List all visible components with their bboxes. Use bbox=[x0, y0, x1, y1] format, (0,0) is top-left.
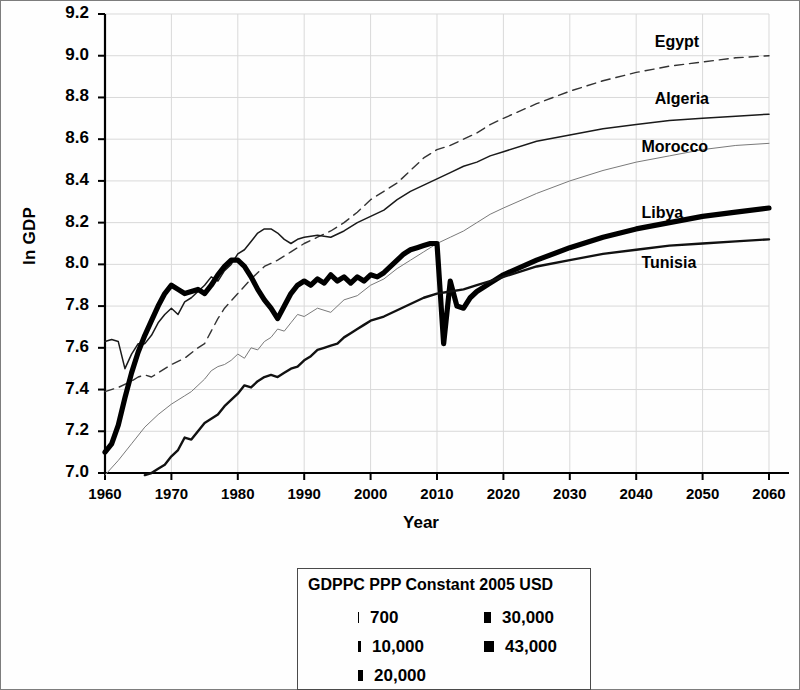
legend-entry-label: 43,000 bbox=[505, 638, 557, 655]
legend: GDPPC PPP Constant 2005 USD 70010,00020,… bbox=[297, 568, 591, 690]
legend-entry: 10,000 bbox=[358, 634, 424, 658]
legend-entry-label: 20,000 bbox=[374, 667, 426, 684]
axis-lines bbox=[98, 14, 789, 480]
legend-title: GDPPC PPP Constant 2005 USD bbox=[308, 576, 553, 594]
x-axis-title: Year bbox=[341, 513, 501, 533]
y-tick-label: 7.6 bbox=[43, 337, 89, 357]
y-tick-label: 7.2 bbox=[43, 420, 89, 440]
y-tick-label: 9.0 bbox=[43, 45, 89, 65]
legend-swatch-icon bbox=[484, 641, 494, 652]
x-tick-label: 2010 bbox=[407, 485, 467, 502]
legend-entry-label: 10,000 bbox=[372, 638, 424, 655]
x-tick-label: 2030 bbox=[540, 485, 600, 502]
x-tick-label: 2020 bbox=[473, 485, 533, 502]
x-tick-label: 1980 bbox=[208, 485, 268, 502]
y-tick-label: 8.8 bbox=[43, 86, 89, 106]
y-tick-label: 7.8 bbox=[43, 295, 89, 315]
y-tick-label: 8.4 bbox=[43, 170, 89, 190]
x-tick-label: 1970 bbox=[141, 485, 201, 502]
x-tick-label: 2000 bbox=[341, 485, 401, 502]
series-label-tunisia: Tunisia bbox=[641, 254, 696, 272]
series-label-algeria: Algeria bbox=[655, 90, 709, 108]
x-tick-label: 1990 bbox=[274, 485, 334, 502]
legend-swatch-icon bbox=[358, 670, 363, 681]
x-tick-label: 1960 bbox=[75, 485, 135, 502]
series-label-egypt: Egypt bbox=[655, 33, 699, 51]
x-tick-label: 2060 bbox=[739, 485, 799, 502]
series-line-tunisia bbox=[145, 239, 769, 475]
series-label-morocco: Morocco bbox=[641, 138, 708, 156]
legend-entry: 20,000 bbox=[358, 663, 426, 687]
y-axis-title: ln GDP bbox=[20, 191, 40, 281]
y-tick-label: 8.6 bbox=[43, 128, 89, 148]
legend-entry: 30,000 bbox=[484, 605, 554, 629]
x-tick-label: 2050 bbox=[673, 485, 733, 502]
figure-frame: 9.29.08.88.68.48.28.07.87.67.47.27.0 196… bbox=[0, 0, 800, 690]
y-tick-label: 8.0 bbox=[43, 253, 89, 273]
legend-swatch-icon bbox=[358, 641, 361, 652]
y-tick-label: 7.4 bbox=[43, 379, 89, 399]
x-tick-label: 2040 bbox=[606, 485, 666, 502]
legend-swatch-icon bbox=[484, 612, 491, 623]
legend-entry: 43,000 bbox=[484, 634, 557, 658]
y-tick-label: 7.0 bbox=[43, 462, 89, 482]
y-tick-label: 9.2 bbox=[43, 3, 89, 23]
legend-entry: 700 bbox=[358, 605, 398, 629]
legend-entry-label: 700 bbox=[370, 609, 398, 626]
y-tick-label: 8.2 bbox=[43, 212, 89, 232]
series-label-libya: Libya bbox=[641, 204, 683, 222]
legend-entry-label: 30,000 bbox=[502, 609, 554, 626]
legend-swatch-icon bbox=[358, 612, 359, 623]
